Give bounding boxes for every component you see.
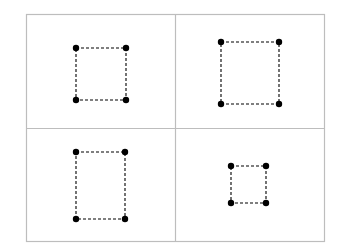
quad-panel-diagram [0, 0, 343, 248]
panel-top-right [218, 39, 282, 107]
dashed-rectangle [76, 152, 125, 219]
corner-point [228, 163, 234, 169]
corner-point [228, 200, 234, 206]
dashed-rectangle [231, 166, 266, 203]
corner-point [73, 216, 79, 222]
dashed-rectangle [221, 42, 279, 104]
corner-point [263, 200, 269, 206]
panel-grid-frame [26, 14, 325, 242]
corner-point [73, 45, 79, 51]
panel-bottom-right [228, 163, 269, 206]
corner-point [263, 163, 269, 169]
corner-point [73, 149, 79, 155]
corner-point [122, 149, 128, 155]
corner-point [73, 97, 79, 103]
panels [73, 39, 282, 222]
dashed-rectangle [76, 48, 126, 100]
corner-point [123, 45, 129, 51]
corner-point [123, 97, 129, 103]
corner-point [276, 39, 282, 45]
corner-point [122, 216, 128, 222]
corner-point [218, 101, 224, 107]
panel-top-left [73, 45, 129, 103]
panel-bottom-left [73, 149, 128, 222]
corner-point [276, 101, 282, 107]
corner-point [218, 39, 224, 45]
